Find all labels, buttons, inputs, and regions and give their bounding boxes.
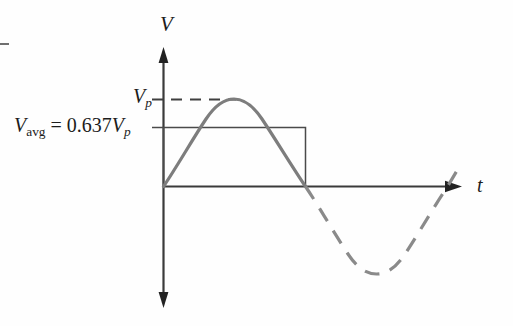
x-axis-label: t xyxy=(477,175,483,195)
positive-half-cycle-curve xyxy=(164,99,306,187)
average-value-coefficient: 0.637 xyxy=(67,114,112,136)
x-axis-label-text: t xyxy=(477,174,483,196)
average-value-peak-subscript: p xyxy=(124,124,131,139)
average-value-rectangle xyxy=(152,128,306,187)
y-axis-label: V xyxy=(160,14,173,35)
peak-value-label: Vp xyxy=(133,86,152,109)
average-value-symbol: V xyxy=(14,114,26,136)
average-value-equals: = xyxy=(46,114,67,136)
average-value-peak-symbol: V xyxy=(112,114,124,136)
negative-half-cycle-curve xyxy=(306,169,459,274)
peak-value-symbol: V xyxy=(133,85,145,107)
average-value-label: Vavg = 0.637Vp xyxy=(14,115,131,138)
peak-value-subscript: p xyxy=(145,95,152,110)
waveform-figure: V t Vp Vavg = 0.637Vp xyxy=(0,0,513,326)
waveform-plot xyxy=(0,0,513,326)
x-axis xyxy=(163,181,462,192)
average-value-subscript: avg xyxy=(26,124,45,139)
